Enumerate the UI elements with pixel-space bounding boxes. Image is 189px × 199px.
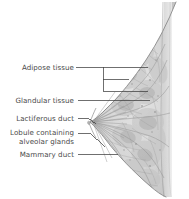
label-lobule-line1: Lobule containing <box>10 128 74 137</box>
label-adipose-tissue: Adipose tissue <box>0 63 74 72</box>
label-mammary-duct: Mammary duct <box>0 150 74 159</box>
label-lobule-line2: alveolar glands <box>0 137 74 146</box>
label-lactiferous-duct: Lactiferous duct <box>0 114 74 123</box>
label-glandular-tissue: Glandular tissue <box>0 96 74 105</box>
breast-anatomy-figure: Adipose tissue Glandular tissue Lactifer… <box>0 0 189 199</box>
label-lobule-alveolar-glands: Lobule containing alveolar glands <box>0 128 74 146</box>
